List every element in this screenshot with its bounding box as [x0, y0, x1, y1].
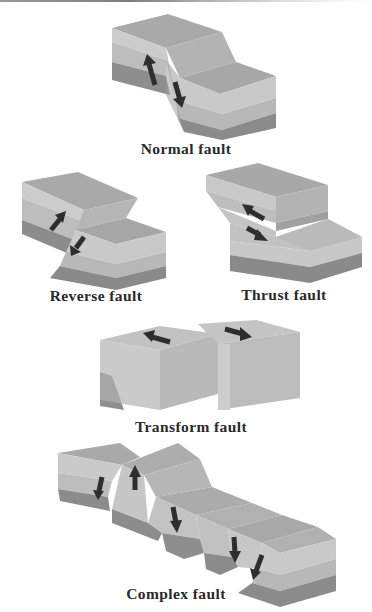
thrust-fault-label: Thrust fault [241, 286, 326, 304]
normal-fault-panel: Normal fault [0, 0, 372, 160]
thrust-fault-panel: Thrust fault [190, 155, 372, 310]
complex-fault-label: Complex fault [126, 585, 226, 603]
reverse-fault-panel: Reverse fault [0, 160, 190, 310]
transform-fault-label: Transform fault [135, 418, 247, 436]
transform-fault-panel: Transform fault [0, 310, 372, 440]
complex-fault-panel: Complex fault [0, 435, 372, 612]
reverse-fault-label: Reverse fault [50, 287, 143, 305]
normal-fault-diagram [0, 0, 372, 160]
